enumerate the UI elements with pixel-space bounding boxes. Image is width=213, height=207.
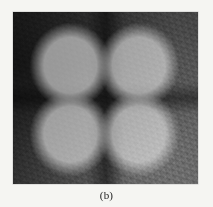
figure-panel: (b) bbox=[0, 0, 213, 207]
figure-image bbox=[13, 12, 198, 184]
image-vignette bbox=[13, 12, 198, 184]
figure-caption: (b) bbox=[0, 188, 213, 202]
